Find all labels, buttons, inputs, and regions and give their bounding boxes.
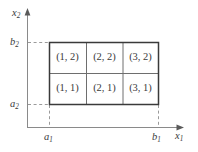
y-axis-label-sub: 2 bbox=[17, 12, 21, 20]
tick-label-a1-sub: 1 bbox=[49, 136, 53, 144]
y-axis-label: x2 bbox=[12, 7, 20, 20]
tick-label-b1: b1 bbox=[152, 131, 161, 144]
grid-cell-2-2: (2, 2) bbox=[86, 52, 123, 63]
grid-cell-3-1: (3, 1) bbox=[122, 83, 159, 94]
diagram-vector-layer bbox=[0, 0, 198, 152]
tick-label-b2-sub: 2 bbox=[15, 41, 19, 49]
x-axis-label-sub: 1 bbox=[180, 135, 184, 143]
grid-cell-1-2: (1, 2) bbox=[49, 52, 86, 63]
figure-canvas: x2 x1 b2 a2 a1 b1 (1, 2) (2, 2) (3, 2) (… bbox=[0, 0, 198, 152]
tick-label-a2: a2 bbox=[10, 98, 19, 111]
tick-label-a2-sub: 2 bbox=[15, 103, 19, 111]
grid-cell-1-1: (1, 1) bbox=[49, 83, 86, 94]
grid-cell-3-2: (3, 2) bbox=[122, 52, 159, 63]
tick-label-a1: a1 bbox=[44, 131, 53, 144]
x-axis-label: x1 bbox=[175, 130, 183, 143]
y-axis-arrow-icon bbox=[25, 8, 31, 16]
grid-cell-2-1: (2, 1) bbox=[86, 83, 123, 94]
tick-label-b2: b2 bbox=[10, 36, 19, 49]
tick-label-b1-sub: 1 bbox=[157, 136, 161, 144]
